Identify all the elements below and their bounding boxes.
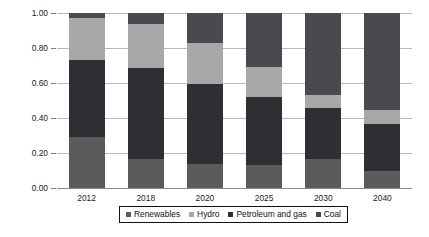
bar-segment-coal[interactable] [246, 13, 282, 67]
bar-segment-hydro[interactable] [69, 18, 105, 60]
x-tick-label: 2030 [314, 193, 333, 203]
bar-stack [246, 13, 282, 188]
gridline [57, 188, 412, 189]
bar-group[interactable]: 2025 [246, 13, 282, 188]
x-tick-label: 2018 [136, 193, 155, 203]
bar-stack [69, 13, 105, 188]
bar-segment-hydro[interactable] [305, 95, 341, 107]
y-tick-mark [51, 153, 56, 154]
bar-segment-renewables[interactable] [128, 159, 164, 188]
y-tick-mark [51, 188, 56, 189]
y-tick-mark [51, 83, 56, 84]
bar-group[interactable]: 2030 [305, 13, 341, 188]
x-tick-label: 2025 [255, 193, 274, 203]
bar-segment-coal[interactable] [69, 13, 105, 18]
bar-stack [128, 13, 164, 188]
bar-segment-coal[interactable] [128, 13, 164, 24]
bar-segment-coal[interactable] [305, 13, 341, 95]
y-tick-label: 0.40 [32, 113, 48, 123]
y-tick-label: 1.00 [32, 8, 48, 18]
x-tick-label: 2012 [77, 193, 96, 203]
bar-segment-petroleum-and-gas[interactable] [364, 124, 400, 170]
bars-layer: 201220182020202520302040 [57, 13, 412, 188]
y-tick-label: 0.00 [32, 183, 48, 193]
legend-swatch-icon [126, 212, 131, 217]
legend-swatch-icon [228, 212, 233, 217]
plot-area: 0.000.200.400.600.801.00 201220182020202… [57, 13, 412, 188]
bar-segment-coal[interactable] [364, 13, 400, 110]
y-tick-mark [51, 48, 56, 49]
bar-segment-hydro[interactable] [246, 67, 282, 97]
y-tick-mark [51, 13, 56, 14]
legend-swatch-icon [189, 212, 194, 217]
bar-segment-renewables[interactable] [305, 159, 341, 188]
bar-group[interactable]: 2012 [69, 13, 105, 188]
bar-group[interactable]: 2018 [128, 13, 164, 188]
bar-stack [364, 13, 400, 188]
legend-label: Renewables [134, 210, 180, 218]
y-tick-label: 0.60 [32, 78, 48, 88]
x-tick-label: 2040 [373, 193, 392, 203]
bar-segment-petroleum-and-gas[interactable] [69, 60, 105, 137]
bar-segment-renewables[interactable] [364, 171, 400, 189]
legend-label: Petroleum and gas [236, 210, 306, 218]
legend-item-coal[interactable]: Coal [316, 210, 341, 218]
y-tick-mark [51, 118, 56, 119]
y-tick-label: 0.20 [32, 148, 48, 158]
chart-legend: RenewablesHydroPetroleum and gasCoal [119, 206, 348, 223]
bar-segment-coal[interactable] [187, 13, 223, 43]
bar-stack [187, 13, 223, 188]
bar-segment-petroleum-and-gas[interactable] [128, 68, 164, 159]
y-tick-label: 0.80 [32, 43, 48, 53]
legend-swatch-icon [316, 212, 321, 217]
legend-item-renewables[interactable]: Renewables [126, 210, 180, 218]
bar-segment-renewables[interactable] [246, 165, 282, 188]
legend-label: Coal [324, 210, 341, 218]
bar-segment-hydro[interactable] [364, 110, 400, 124]
x-tick-label: 2020 [196, 193, 215, 203]
bar-segment-renewables[interactable] [187, 164, 223, 189]
bar-segment-petroleum-and-gas[interactable] [187, 84, 223, 164]
bar-segment-petroleum-and-gas[interactable] [305, 108, 341, 160]
legend-item-petroleum-and-gas[interactable]: Petroleum and gas [228, 210, 306, 218]
bar-segment-renewables[interactable] [69, 137, 105, 188]
bar-stack [305, 13, 341, 188]
legend-label: Hydro [197, 210, 219, 218]
legend-item-hydro[interactable]: Hydro [189, 210, 219, 218]
bar-segment-hydro[interactable] [187, 43, 223, 84]
bar-segment-petroleum-and-gas[interactable] [246, 97, 282, 165]
bar-segment-hydro[interactable] [128, 24, 164, 68]
bar-group[interactable]: 2040 [364, 13, 400, 188]
stacked-bar-chart: Share of electricity production 0.000.20… [0, 0, 429, 237]
bar-group[interactable]: 2020 [187, 13, 223, 188]
